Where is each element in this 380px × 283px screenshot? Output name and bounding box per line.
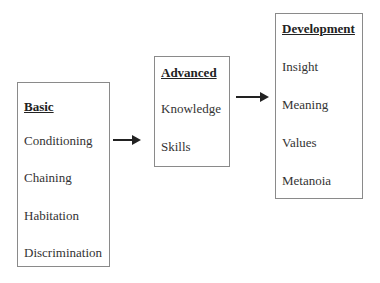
development-item-metanoia: Metanoia xyxy=(282,173,331,189)
development-title: Development xyxy=(282,21,355,37)
advanced-item-knowledge: Knowledge xyxy=(161,101,221,117)
basic-item-conditioning: Conditioning xyxy=(24,133,93,149)
development-item-insight: Insight xyxy=(282,59,318,75)
advanced-title: Advanced xyxy=(161,65,217,81)
advanced-box: Advanced Knowledge Skills xyxy=(154,56,230,167)
development-item-meaning: Meaning xyxy=(282,97,328,113)
basic-item-discrimination: Discrimination xyxy=(24,245,102,261)
basic-item-habitation: Habitation xyxy=(24,208,79,224)
basic-item-chaining: Chaining xyxy=(24,170,72,186)
development-box: Development Insight Meaning Values Metan… xyxy=(275,13,363,199)
arrow-basic-to-advanced xyxy=(113,139,139,141)
basic-title: Basic xyxy=(24,99,54,115)
basic-box: Basic Conditioning Chaining Habitation D… xyxy=(17,82,110,267)
arrow-advanced-to-development xyxy=(236,96,267,98)
advanced-item-skills: Skills xyxy=(161,139,191,155)
development-item-values: Values xyxy=(282,135,317,151)
